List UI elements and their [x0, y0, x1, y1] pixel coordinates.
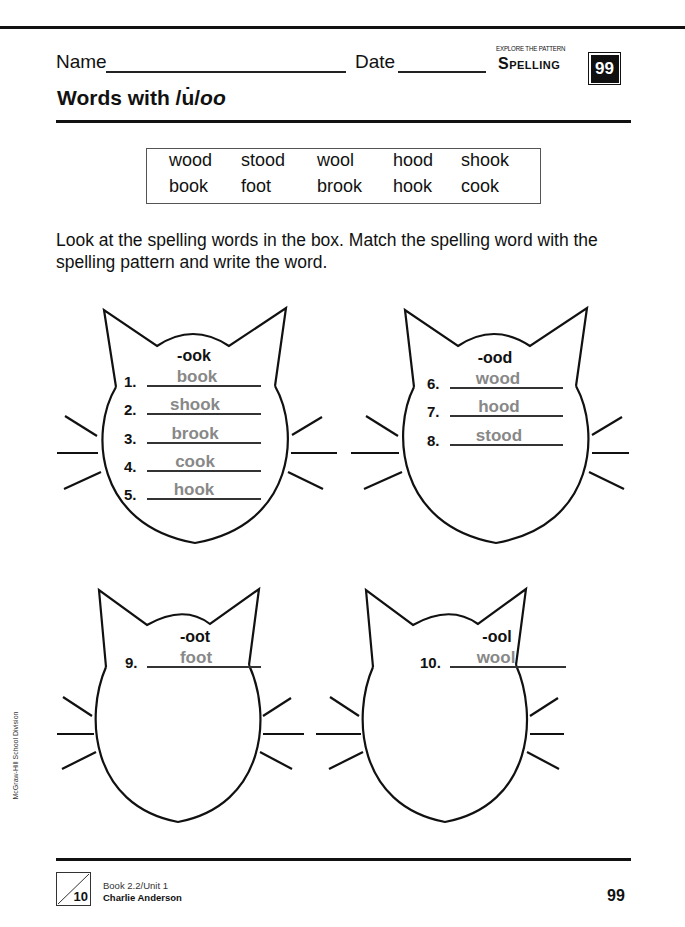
item-number: 5.: [124, 486, 137, 503]
answer-text: foot: [146, 648, 246, 668]
footer-rule: [56, 858, 631, 861]
publisher-credit: McGraw-Hill School Division: [12, 701, 19, 811]
answer-text: brook: [145, 424, 245, 444]
answer-text: wool: [446, 648, 546, 668]
item-number: 2.: [124, 401, 137, 418]
item-number: 9.: [125, 654, 138, 671]
item-number: 3.: [124, 430, 137, 447]
item-number: 1.: [124, 373, 137, 390]
page-number: 99: [607, 887, 625, 905]
pattern-label-ook: -ook: [154, 347, 234, 365]
cat-outline-oot: [57, 589, 304, 822]
score-box: 10: [56, 872, 91, 906]
pattern-label-ood: -ood: [455, 349, 535, 367]
cat-outline-ool: [316, 589, 564, 822]
item-number: 10.: [420, 654, 441, 671]
answer-text: shook: [145, 395, 245, 415]
student-name: Charlie Anderson: [103, 892, 182, 903]
item-number: 6.: [427, 375, 440, 392]
answer-text: stood: [449, 426, 549, 446]
score-total: 10: [74, 889, 88, 904]
pattern-label-oot: -oot: [155, 628, 235, 646]
item-number: 8.: [427, 432, 440, 449]
book-unit: Book 2.2/Unit 1: [103, 880, 168, 891]
answer-text: hook: [144, 480, 244, 500]
answer-text: cook: [145, 452, 245, 472]
item-number: 4.: [124, 458, 137, 475]
item-number: 7.: [427, 403, 440, 420]
answer-text: book: [147, 367, 247, 387]
answer-text: wood: [448, 369, 548, 389]
answer-text: hood: [449, 397, 549, 417]
cat-drawings: [0, 0, 685, 927]
pattern-label-ool: -ool: [457, 628, 537, 646]
